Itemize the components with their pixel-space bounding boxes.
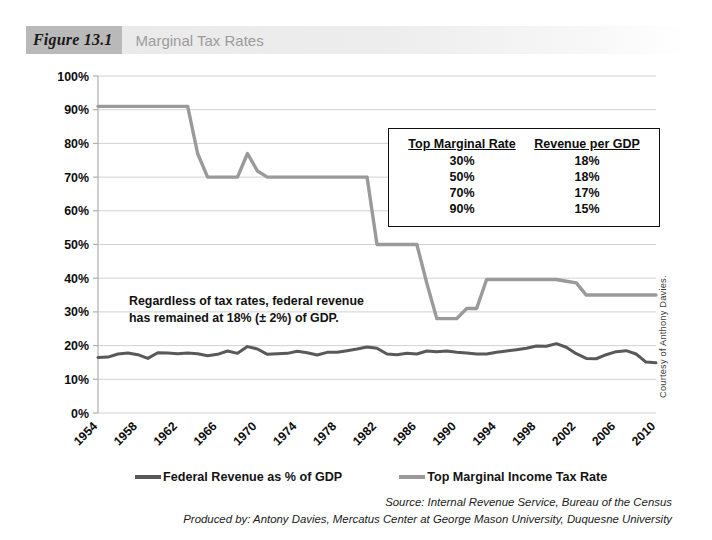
- table-row: 30%18%: [399, 153, 649, 169]
- y-axis-tick-label: 40%: [64, 272, 89, 286]
- table-cell: 15%: [525, 201, 649, 217]
- table-header-revenue-per-gdp: Revenue per GDP: [525, 136, 649, 153]
- image-credit: Courtesy of Anthony Davies.: [658, 278, 668, 398]
- x-axis-tick-label: 1974: [270, 419, 299, 448]
- y-axis-tick-label: 20%: [64, 339, 89, 353]
- table-row: 50%18%: [399, 169, 649, 185]
- y-axis-tick-label: 60%: [64, 204, 89, 218]
- y-axis-labels-group: 100%90%80%70%60%50%40%30%20%10%0%: [57, 70, 89, 421]
- legend-swatch-icon-top-marginal-rate: [399, 475, 425, 479]
- table-cell: 90%: [399, 201, 525, 217]
- summary-table-body: 30%18%50%18%70%17%90%15%: [399, 153, 649, 217]
- summary-table-grid: Top Marginal Rate Revenue per GDP 30%18%…: [399, 136, 649, 217]
- legend-label-top-marginal-rate: Top Marginal Income Tax Rate: [427, 470, 607, 484]
- table-row: 90%15%: [399, 201, 649, 217]
- x-axis-tick-label: 1998: [509, 419, 538, 448]
- summary-table: Top Marginal Rate Revenue per GDP 30%18%…: [388, 128, 660, 227]
- chart-annotation: Regardless of tax rates, federal revenue…: [129, 293, 404, 326]
- annotation-line-2: has remained at 18% (± 2%) of GDP.: [129, 310, 404, 327]
- y-axis-tick-label: 80%: [64, 137, 89, 151]
- x-axis-tick-label: 2010: [629, 419, 658, 448]
- legend-item-top-marginal-rate: Top Marginal Income Tax Rate: [399, 470, 607, 484]
- table-cell: 18%: [525, 153, 649, 169]
- chart-legend: Federal Revenue as % of GDP Top Marginal…: [135, 470, 605, 484]
- table-cell: 50%: [399, 169, 525, 185]
- x-axis-tick-label: 1986: [390, 419, 419, 448]
- x-axis-tick-label: 1994: [470, 419, 499, 448]
- produced-by-line: Produced by: Antony Davies, Mercatus Cen…: [0, 511, 672, 528]
- y-axis-tick-label: 30%: [64, 305, 89, 319]
- table-cell: 17%: [525, 185, 649, 201]
- series-line-federal-revenue: [98, 344, 656, 363]
- legend-item-federal-revenue: Federal Revenue as % of GDP: [135, 470, 342, 484]
- x-axis-tick-label: 1970: [230, 419, 259, 448]
- y-axis-tick-label: 90%: [64, 103, 89, 117]
- table-row: 70%17%: [399, 185, 649, 201]
- x-axis-tick-label: 1954: [71, 419, 100, 448]
- x-axis-tick-label: 1990: [430, 419, 459, 448]
- table-cell: 18%: [525, 169, 649, 185]
- y-axis-tick-label: 50%: [64, 238, 89, 252]
- chart-container: 100%90%80%70%60%50%40%30%20%10%0% 195419…: [0, 0, 712, 540]
- source-attribution: Source: Internal Revenue Service, Bureau…: [0, 494, 672, 527]
- annotation-line-1: Regardless of tax rates, federal revenue: [129, 293, 404, 310]
- x-axis-tick-label: 1958: [111, 419, 140, 448]
- y-axis-tick-label: 100%: [57, 70, 89, 84]
- y-axis-ticks-group: [93, 76, 98, 413]
- x-axis-tick-label: 1982: [350, 419, 379, 448]
- y-axis-tick-label: 0%: [71, 407, 89, 421]
- x-axis-tick-label: 1962: [151, 419, 180, 448]
- chart-svg: 100%90%80%70%60%50%40%30%20%10%0% 195419…: [0, 0, 712, 540]
- table-cell: 30%: [399, 153, 525, 169]
- x-axis-tick-label: 1978: [310, 419, 339, 448]
- table-cell: 70%: [399, 185, 525, 201]
- table-header-row: Top Marginal Rate Revenue per GDP: [399, 136, 649, 153]
- y-axis-tick-label: 70%: [64, 171, 89, 185]
- legend-swatch-icon-federal-revenue: [135, 475, 161, 479]
- y-axis-tick-label: 10%: [64, 373, 89, 387]
- x-axis-tick-label: 2006: [589, 419, 618, 448]
- x-axis-tick-label: 2002: [549, 419, 578, 448]
- x-axis-tick-label: 1966: [191, 419, 220, 448]
- x-axis-labels-group: 1954195819621966197019741978198219861990…: [71, 419, 658, 448]
- source-line: Source: Internal Revenue Service, Bureau…: [0, 494, 672, 511]
- legend-label-federal-revenue: Federal Revenue as % of GDP: [163, 470, 342, 484]
- table-header-top-marginal-rate: Top Marginal Rate: [399, 136, 525, 153]
